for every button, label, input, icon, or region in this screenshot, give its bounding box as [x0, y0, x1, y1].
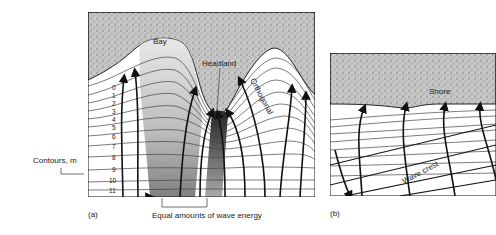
svg-text:8: 8	[112, 154, 116, 161]
energy-label: Equal amounts of wave energy	[152, 211, 262, 220]
energy-bracket	[162, 198, 207, 207]
svg-text:2: 2	[112, 100, 116, 107]
shore-label: Shore	[429, 87, 451, 96]
contours-label: Contours, m	[33, 156, 77, 165]
panel-a	[88, 12, 315, 197]
contours-leader	[61, 168, 84, 174]
svg-text:0: 0	[112, 84, 116, 91]
svg-text:9: 9	[112, 166, 116, 173]
svg-text:3: 3	[112, 108, 116, 115]
svg-text:11: 11	[109, 187, 116, 194]
panel-a-caption: (a)	[88, 210, 98, 219]
svg-text:7: 7	[112, 143, 116, 150]
panel-b-caption: (b)	[330, 209, 340, 218]
svg-text:5: 5	[112, 124, 116, 131]
svg-text:4: 4	[112, 116, 116, 123]
svg-text:10: 10	[109, 177, 117, 184]
svg-text:6: 6	[112, 133, 116, 140]
shore-land	[330, 53, 496, 108]
headland-label: Headland	[202, 59, 236, 68]
svg-text:1: 1	[112, 92, 116, 99]
wave-refraction-diagram: Bay Headland Orthogonal 0 1 2 3 4 5 6 7 …	[0, 0, 496, 235]
bay-label: Bay	[153, 37, 167, 46]
